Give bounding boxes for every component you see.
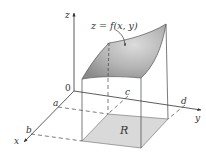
x-axis-label: x — [14, 136, 19, 146]
surface-label: z = f(x, y) — [90, 20, 138, 31]
surface-patch — [82, 24, 166, 79]
bound-c-label: c — [125, 87, 130, 97]
region-r-label: R — [119, 124, 128, 137]
z-axis-label: z — [64, 10, 70, 20]
bound-d-label: d — [181, 96, 187, 106]
bound-b-label: b — [26, 125, 32, 135]
y-axis-label: y — [194, 113, 201, 123]
origin-label: 0 — [65, 83, 71, 93]
surface-over-rectangle-diagram: z = f(x, y) z y x 0 a b c d R — [0, 0, 206, 162]
bound-a-label: a — [53, 98, 58, 108]
